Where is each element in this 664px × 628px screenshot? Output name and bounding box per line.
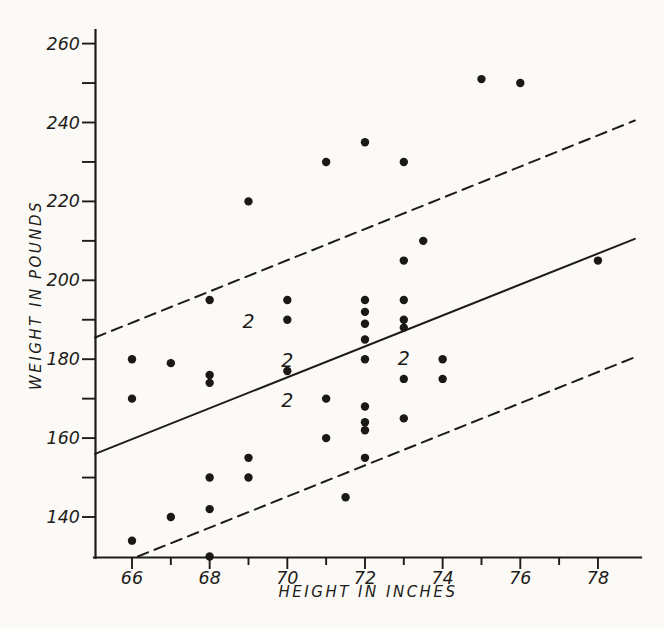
data-point bbox=[244, 454, 252, 462]
data-point bbox=[361, 138, 369, 146]
data-point bbox=[361, 402, 369, 410]
x-tick-label: 68 bbox=[199, 568, 221, 588]
y-tick-label: 180 bbox=[47, 349, 80, 369]
y-tick-label: 240 bbox=[47, 113, 80, 133]
data-point bbox=[322, 394, 330, 402]
data-point bbox=[205, 473, 213, 481]
data-point bbox=[341, 493, 349, 501]
data-point bbox=[477, 75, 485, 83]
data-point bbox=[400, 323, 408, 331]
data-point bbox=[128, 355, 136, 363]
data-point bbox=[400, 296, 408, 304]
data-point bbox=[400, 414, 408, 422]
frequency-label: 2 bbox=[281, 349, 293, 371]
frequency-label: 2 bbox=[398, 347, 410, 369]
x-tick-label: 78 bbox=[587, 568, 609, 588]
y-axis-title: WEIGHT IN POUNDS bbox=[27, 200, 45, 390]
data-point bbox=[400, 375, 408, 383]
data-point bbox=[205, 552, 213, 560]
data-point bbox=[594, 256, 602, 264]
x-tick-label: 72 bbox=[354, 568, 376, 588]
data-point bbox=[244, 197, 252, 205]
data-point bbox=[400, 256, 408, 264]
data-point bbox=[400, 316, 408, 324]
data-point bbox=[361, 335, 369, 343]
data-point bbox=[361, 308, 369, 316]
y-tick-label: 220 bbox=[47, 191, 80, 211]
data-point bbox=[322, 434, 330, 442]
data-point bbox=[167, 359, 175, 367]
data-point bbox=[516, 79, 524, 87]
lower-band-line bbox=[138, 357, 635, 556]
data-point bbox=[205, 296, 213, 304]
scatter-plot-canvas: HEIGHT IN INCHES WEIGHT IN POUNDS 140160… bbox=[0, 0, 664, 628]
y-tick-label: 200 bbox=[47, 270, 80, 290]
data-point bbox=[361, 296, 369, 304]
x-tick-label: 76 bbox=[509, 568, 531, 588]
y-tick-label: 140 bbox=[47, 507, 80, 527]
data-point bbox=[205, 505, 213, 513]
frequency-label: 2 bbox=[281, 389, 293, 411]
data-point bbox=[361, 355, 369, 363]
y-tick-label: 160 bbox=[47, 428, 80, 448]
data-point bbox=[400, 158, 408, 166]
x-tick-label: 74 bbox=[431, 568, 453, 588]
data-point bbox=[361, 426, 369, 434]
scatter-figure: HEIGHT IN INCHES WEIGHT IN POUNDS 140160… bbox=[0, 0, 664, 628]
data-point bbox=[438, 355, 446, 363]
data-point bbox=[361, 454, 369, 462]
data-point bbox=[244, 473, 252, 481]
y-tick-label: 260 bbox=[47, 34, 80, 54]
data-point bbox=[167, 513, 175, 521]
data-point bbox=[361, 418, 369, 426]
data-point bbox=[283, 296, 291, 304]
upper-band-line bbox=[95, 121, 635, 338]
x-tick-label: 66 bbox=[121, 568, 143, 588]
data-point bbox=[419, 237, 427, 245]
data-point bbox=[128, 536, 136, 544]
data-point bbox=[205, 371, 213, 379]
x-tick-label: 70 bbox=[276, 568, 298, 588]
data-point bbox=[205, 379, 213, 387]
frequency-label: 2 bbox=[242, 310, 254, 332]
data-point bbox=[438, 375, 446, 383]
data-point bbox=[283, 316, 291, 324]
data-point bbox=[361, 319, 369, 327]
data-point bbox=[128, 394, 136, 402]
data-point bbox=[322, 158, 330, 166]
